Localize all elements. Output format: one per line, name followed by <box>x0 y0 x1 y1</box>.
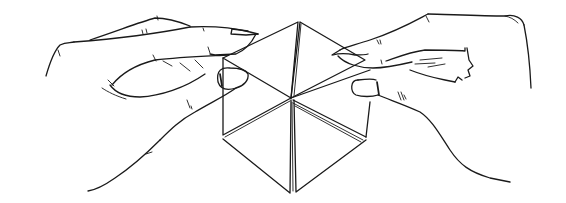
right-hand <box>332 14 531 182</box>
line-drawing <box>0 0 566 203</box>
left-hand <box>46 16 258 191</box>
hexaflexagon <box>223 22 370 193</box>
illustration: Line drawing of two hands holding and fl… <box>0 0 566 203</box>
